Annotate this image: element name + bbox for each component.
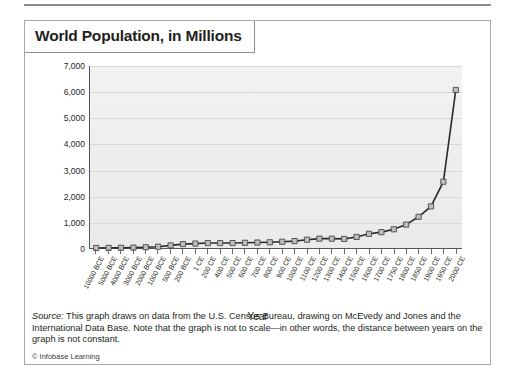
x-tick xyxy=(95,249,96,254)
x-tick xyxy=(195,249,196,254)
source-label: Source: xyxy=(32,311,64,321)
x-tick xyxy=(431,249,432,254)
chart-title: World Population, in Millions xyxy=(25,21,255,53)
x-tick xyxy=(257,249,258,254)
x-tick xyxy=(120,249,121,254)
x-tick xyxy=(207,249,208,254)
source-text: This graph draws on data from the U.S. C… xyxy=(32,311,482,344)
y-tick-label: 0 xyxy=(80,244,85,254)
x-tick xyxy=(232,249,233,254)
data-point-marker xyxy=(292,239,297,244)
data-point-marker xyxy=(391,227,396,232)
x-tick xyxy=(344,249,345,254)
x-tick xyxy=(319,249,320,254)
data-point-marker xyxy=(280,239,285,244)
source-note: Source: This graph draws on data from th… xyxy=(32,311,484,346)
x-tick xyxy=(182,249,183,254)
x-tick xyxy=(406,249,407,254)
x-tick xyxy=(307,249,308,254)
x-tick xyxy=(220,249,221,254)
copyright-credit: © Infobase Learning xyxy=(32,352,100,361)
x-tick xyxy=(394,249,395,254)
data-point-marker xyxy=(218,240,223,245)
data-point-marker xyxy=(416,214,421,219)
x-tick xyxy=(170,249,171,254)
y-axis-labels: 01,0002,0003,0004,0005,0006,0007,000 xyxy=(24,66,85,249)
y-tick-label: 5,000 xyxy=(64,113,85,123)
x-tick xyxy=(381,249,382,254)
x-tick xyxy=(108,249,109,254)
x-tick xyxy=(294,249,295,254)
data-point-marker xyxy=(168,243,173,248)
x-tick xyxy=(369,249,370,254)
data-point-marker xyxy=(342,236,347,241)
data-point-marker xyxy=(255,240,260,245)
data-point-marker xyxy=(317,236,322,241)
data-point-marker xyxy=(354,234,359,239)
x-tick xyxy=(145,249,146,254)
data-point-marker xyxy=(230,240,235,245)
x-tick xyxy=(456,249,457,254)
x-tick xyxy=(133,249,134,254)
data-point-marker xyxy=(193,241,198,246)
y-tick-label: 3,000 xyxy=(64,166,85,176)
data-point-marker xyxy=(366,231,371,236)
top-divider-rule xyxy=(24,4,491,6)
x-tick xyxy=(269,249,270,254)
chart-area: 01,0002,0003,0004,0005,0006,0007,000 100… xyxy=(24,58,491,308)
data-point-marker xyxy=(379,230,384,235)
y-tick-label: 2,000 xyxy=(64,192,85,202)
data-point-marker xyxy=(205,240,210,245)
x-tick xyxy=(443,249,444,254)
data-point-marker xyxy=(428,204,433,209)
x-axis-labels: 10000 BCE5000 BCE4000 BCE3000 BCE2000 BC… xyxy=(89,255,462,311)
y-tick-label: 1,000 xyxy=(64,218,85,228)
figure-page: World Population, in Millions 01,0002,00… xyxy=(0,0,515,375)
x-tick xyxy=(157,249,158,254)
plot-area xyxy=(89,66,462,249)
population-line-series xyxy=(90,66,462,248)
data-point-marker xyxy=(267,240,272,245)
y-tick-label: 6,000 xyxy=(64,87,85,97)
data-point-marker xyxy=(404,222,409,227)
x-tick xyxy=(418,249,419,254)
y-tick-label: 4,000 xyxy=(64,139,85,149)
x-tick xyxy=(356,249,357,254)
series-line xyxy=(96,90,456,248)
data-point-marker xyxy=(453,87,458,92)
y-tick-label: 7,000 xyxy=(64,61,85,71)
x-tick xyxy=(244,249,245,254)
data-point-marker xyxy=(242,240,247,245)
data-point-marker xyxy=(329,236,334,241)
x-tick xyxy=(331,249,332,254)
data-point-marker xyxy=(441,179,446,184)
x-tick xyxy=(282,249,283,254)
data-point-marker xyxy=(180,242,185,247)
data-point-marker xyxy=(304,237,309,242)
